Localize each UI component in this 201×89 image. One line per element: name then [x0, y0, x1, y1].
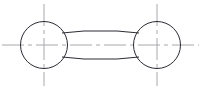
technical-drawing-svg — [0, 0, 201, 89]
connecting-bar-top-edge — [62, 31, 139, 33]
cad-drawing-canvas — [0, 0, 201, 89]
connecting-bar-bottom-edge — [62, 57, 139, 59]
